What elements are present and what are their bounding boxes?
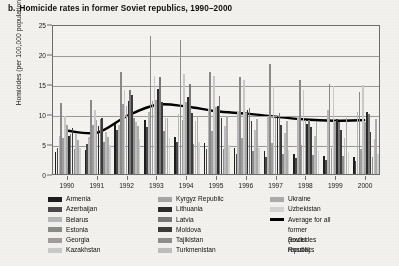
x-axis-tick-label: 1997 xyxy=(268,182,283,189)
x-axis: 1990199119921993199419951996199719981999… xyxy=(52,176,380,190)
legend-average-label-line1: Average for all xyxy=(288,215,330,225)
y-axis-tick-label: 15 xyxy=(39,82,46,89)
x-axis-tick-mark xyxy=(365,176,366,180)
figure-title: b.Homicide rates in former Soviet republ… xyxy=(8,4,232,13)
y-axis: 0510152025 xyxy=(0,25,52,175)
legend-item-label: Ukraine xyxy=(288,194,311,204)
x-axis-tick-label: 1994 xyxy=(179,182,194,189)
x-axis-tick-mark xyxy=(127,176,128,180)
legend-swatch-icon xyxy=(270,197,284,202)
bar xyxy=(79,148,81,174)
x-axis-tick-mark xyxy=(186,176,187,180)
legend-item-label: Kyrgyz Republic xyxy=(176,194,224,204)
bar-group xyxy=(351,26,380,174)
plot-area xyxy=(52,25,380,175)
legend-swatch-icon xyxy=(158,238,172,243)
bar xyxy=(258,148,260,174)
legend-swatch-icon xyxy=(48,217,62,222)
bar-group xyxy=(292,26,322,174)
bar xyxy=(288,150,290,174)
x-axis-tick-mark xyxy=(305,176,306,180)
bar xyxy=(139,139,141,174)
legend-item-label: Uzbekistan xyxy=(288,204,321,214)
legend-swatch-icon xyxy=(48,227,62,232)
legend-swatch-icon xyxy=(158,207,172,212)
legend-swatch-icon xyxy=(48,197,62,202)
legend: ArmeniaAzerbaijanBelarusEstoniaGeorgiaKa… xyxy=(48,194,396,262)
bar-group xyxy=(202,26,232,174)
y-axis-title: Homicides (per 100,000 population) xyxy=(15,0,22,132)
x-axis-tick-label: 1998 xyxy=(298,182,313,189)
legend-item-label: Moldova xyxy=(176,225,201,235)
x-axis-tick-label: 1991 xyxy=(89,182,104,189)
bar xyxy=(318,151,320,174)
x-axis-tick-mark xyxy=(216,176,217,180)
legend-swatch-icon xyxy=(48,207,62,212)
figure-title-text: Homicide rates in former Soviet republic… xyxy=(19,4,232,13)
x-axis-tick-label: 1992 xyxy=(119,182,134,189)
x-axis-tick-label: 2000 xyxy=(358,182,373,189)
x-axis-tick-label: 1995 xyxy=(209,182,224,189)
x-axis-tick-label: 1996 xyxy=(238,182,253,189)
bar xyxy=(109,145,111,174)
legend-item-label: Azerbaijan xyxy=(66,204,97,214)
legend-swatch-icon xyxy=(158,227,172,232)
legend-swatch-icon xyxy=(270,207,284,212)
bar-group xyxy=(232,26,262,174)
legend-swatch-icon xyxy=(158,248,172,253)
legend-item-label: Tajikistan xyxy=(176,235,203,245)
legend-item-label: Armenia xyxy=(66,194,91,204)
legend-item-label: Estonia xyxy=(66,225,88,235)
bar-group xyxy=(113,26,143,174)
legend-item-label: Lithuania xyxy=(176,204,203,214)
bar-group xyxy=(172,26,202,174)
x-axis-tick-label: 1993 xyxy=(149,182,164,189)
x-axis-tick-mark xyxy=(156,176,157,180)
legend-item-label: Kazakhstan xyxy=(66,245,100,255)
bar xyxy=(377,154,379,174)
bar xyxy=(169,138,171,174)
x-axis-tick-mark xyxy=(67,176,68,180)
x-axis-tick-mark xyxy=(246,176,247,180)
bar xyxy=(348,152,350,174)
legend-item-label: Turkmenistan xyxy=(176,245,216,255)
bar-group xyxy=(321,26,351,174)
legend-swatch-icon xyxy=(48,248,62,253)
x-axis-tick-mark xyxy=(97,176,98,180)
legend-item-label: Belarus xyxy=(66,215,88,225)
x-axis-tick-mark xyxy=(276,176,277,180)
legend-swatch-icon xyxy=(48,238,62,243)
legend-swatch-icon xyxy=(158,217,172,222)
x-axis-tick-label: 1990 xyxy=(60,182,75,189)
y-axis-tick-label: 0 xyxy=(42,172,46,179)
legend-line-icon xyxy=(270,218,284,221)
bar-group xyxy=(83,26,113,174)
bar-group xyxy=(53,26,83,174)
bar xyxy=(198,142,200,174)
bar-group xyxy=(142,26,172,174)
y-axis-tick-label: 5 xyxy=(42,142,46,149)
y-axis-tick-label: 10 xyxy=(39,112,46,119)
legend-swatch-icon xyxy=(158,197,172,202)
legend-average-label-line3: (excludes Russia) xyxy=(288,235,316,256)
legend-item-label: Georgia xyxy=(66,235,89,245)
bar xyxy=(228,145,230,174)
legend-item-label: Latvia xyxy=(176,215,194,225)
y-axis-tick-label: 25 xyxy=(39,22,46,29)
x-axis-tick-mark xyxy=(335,176,336,180)
x-axis-tick-label: 1999 xyxy=(328,182,343,189)
bar-group xyxy=(262,26,292,174)
y-axis-tick-label: 20 xyxy=(39,52,46,59)
